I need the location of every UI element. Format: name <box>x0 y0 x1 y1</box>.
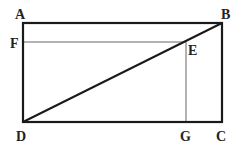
geometry-diagram: A B F E D G C <box>0 0 241 147</box>
label-f: F <box>10 36 19 51</box>
label-a: A <box>15 7 26 22</box>
label-g: G <box>180 129 191 144</box>
label-d: D <box>16 129 26 144</box>
diagonal-db <box>23 23 222 122</box>
label-e: E <box>188 43 197 58</box>
label-b: B <box>221 7 230 22</box>
label-c: C <box>216 129 226 144</box>
